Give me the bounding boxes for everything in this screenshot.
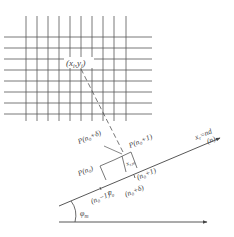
label-p-n0-delta: P(n₀+δ) <box>75 128 102 146</box>
label-x-r-m: xr,m <box>124 157 137 170</box>
label-n0-plus-delta: (n₀+δ) <box>123 183 145 199</box>
label-p-n0: P(n₀) <box>75 163 95 178</box>
box-top-left <box>100 160 114 166</box>
p-n0-drop-line <box>100 166 106 180</box>
tick-n0-minus1 <box>100 187 101 190</box>
tick-n0-plus1 <box>134 175 135 178</box>
p-delta-pointer <box>104 146 122 154</box>
pixel-grid <box>4 16 152 121</box>
axis-label-n: (n) <box>205 134 217 146</box>
projection-diagram: (xi,yi) φm P(n₀+δ) P(n₀+1) P(n₀) xr,m n₀… <box>0 0 234 237</box>
angle-arc <box>71 201 76 222</box>
label-n0-plus1: (n₀+1) <box>135 165 158 181</box>
point-label: (xi,yi) <box>66 58 86 69</box>
label-p-n0-plus1: P(n₀+1) <box>126 132 154 151</box>
angle-label: φm <box>80 209 88 219</box>
